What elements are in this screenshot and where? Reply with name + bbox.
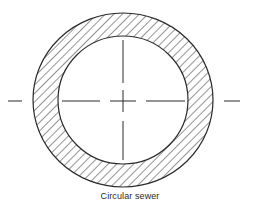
pipe-wall-hatching: [0, 0, 254, 209]
circular-sewer-diagram: [0, 0, 254, 209]
figure-caption: Circular sewer: [0, 191, 254, 201]
